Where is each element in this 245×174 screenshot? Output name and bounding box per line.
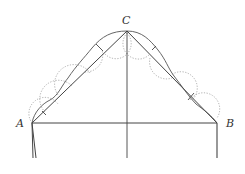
label-A: A [15,117,24,130]
wavy-curve [32,31,217,123]
construction-circles [29,33,220,123]
label-C: C [122,14,131,27]
side-CB [127,31,217,123]
geometry-diagram: A B C [0,0,245,174]
tick-marks [42,44,194,115]
side-AC [32,31,127,123]
label-B: B [225,117,234,130]
